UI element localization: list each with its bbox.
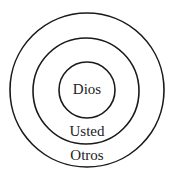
label-otros: Otros (70, 147, 103, 163)
label-dios: Dios (73, 81, 102, 97)
concentric-diagram: Dios Usted Otros (0, 0, 171, 179)
label-usted: Usted (70, 123, 105, 139)
